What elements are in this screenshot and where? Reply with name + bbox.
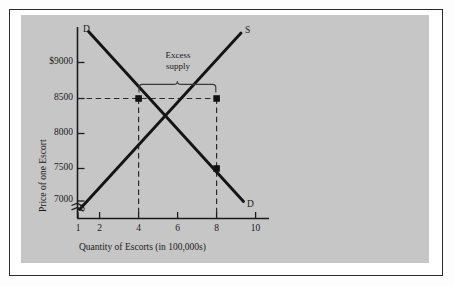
- x-tick-label-6: 6: [168, 224, 188, 234]
- y-tick-label-7000: 7000: [27, 195, 73, 205]
- guide-lines-group: [78, 99, 217, 219]
- supply-curve-label-top: S: [245, 26, 250, 36]
- supply-demand-chart: [0, 0, 454, 287]
- x-tick-label-4: 4: [129, 224, 149, 234]
- x-tick-label-1: 1: [68, 224, 88, 234]
- marker-demand-q8-p7500[interactable]: [213, 165, 220, 172]
- x-tick-label-10: 10: [246, 224, 266, 234]
- y-ticks-group: [78, 63, 85, 202]
- demand-curve-label-bottom: D: [247, 200, 254, 210]
- marker-demand-q4-p8500[interactable]: [135, 95, 142, 102]
- excess-supply-brace-icon: [139, 81, 216, 92]
- y-tick-label-8500: 8500: [27, 93, 73, 103]
- y-tick-label-9000: $9000: [27, 57, 73, 67]
- demand-curve-label-top: D: [83, 25, 90, 35]
- x-ticks-group: [78, 212, 256, 219]
- x-tick-label-8: 8: [207, 224, 227, 234]
- excess-supply-line1: Excess: [166, 50, 191, 60]
- figure-page: $9000 8500 8000 7500 7000 1 2 4 6 8 10 D…: [0, 0, 454, 287]
- x-tick-label-2: 2: [90, 224, 110, 234]
- y-tick-label-8000: 8000: [27, 128, 73, 138]
- x-axis-title: Quantity of Escorts (in 100,000s): [79, 243, 206, 253]
- excess-supply-annotation: Excess supply: [143, 50, 213, 71]
- marker-supply-q8-p8500[interactable]: [213, 95, 220, 102]
- excess-supply-line2: supply: [166, 61, 190, 71]
- y-tick-label-7500: 7500: [27, 163, 73, 173]
- y-axis-title: Price of one Escort: [39, 139, 49, 212]
- supply-curve-label-bottom: S: [80, 204, 85, 214]
